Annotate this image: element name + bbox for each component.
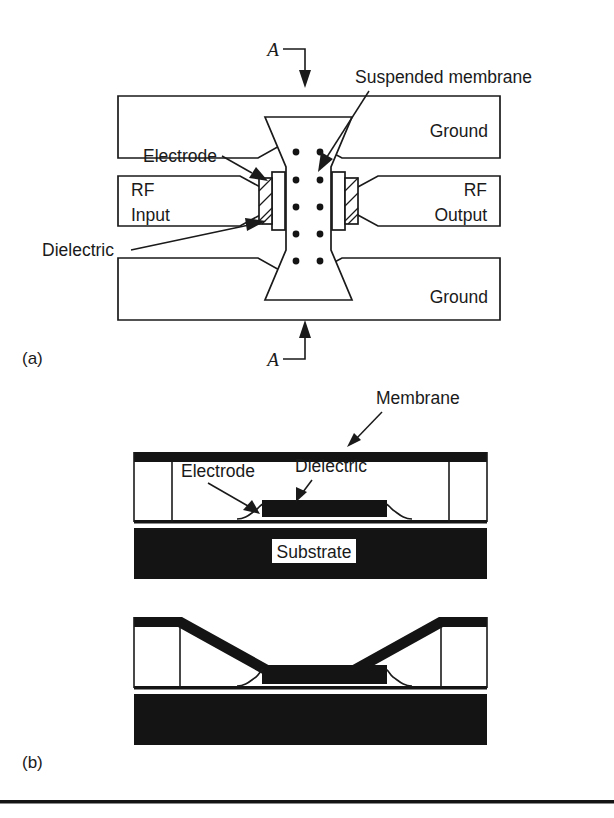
rf-output-label-line2: Output (434, 205, 487, 225)
rf-input-label-line2: Input (131, 205, 170, 225)
right-electrode-pad (332, 172, 345, 230)
section-marker-top-letter: A (265, 39, 279, 60)
section-arrow-down-icon (299, 70, 311, 88)
section-marker-top-leader (283, 49, 305, 72)
membrane-hole (293, 258, 300, 265)
membrane-hole (293, 149, 300, 156)
panel-a-top-view: A Ground Ground RF Input RF Output (22, 39, 532, 370)
panel-b-cross-sections: Membrane Substrate (22, 388, 487, 772)
rf-input-line: RF Input (118, 176, 262, 226)
bottom-electrode-down (262, 668, 387, 684)
ground-top-label: Ground (430, 121, 488, 141)
suspended-membrane-label: Suspended membrane (355, 67, 532, 87)
electrode-label-b: Electrode (181, 461, 255, 481)
ground-bottom-label: Ground (430, 287, 488, 307)
cross-section-down-state (134, 617, 487, 745)
membrane-hole (293, 177, 300, 184)
rf-output-label-line1: RF (464, 180, 487, 200)
membrane-label-b: Membrane (376, 388, 460, 408)
rf-input-label-line1: RF (131, 180, 154, 200)
dielectric-leader-a (131, 225, 249, 250)
bottom-divider-rule (0, 800, 614, 804)
rf-output-line: RF Output (356, 176, 500, 226)
membrane-hole (317, 231, 324, 238)
lower-layer-line-up (134, 520, 487, 524)
dielectric-label-b: Dielectric (295, 456, 367, 476)
dielectric-label-a: Dielectric (42, 240, 114, 260)
panel-b-caption: (b) (22, 753, 43, 772)
membrane-hole (317, 177, 324, 184)
left-electrode-pad (272, 172, 285, 230)
membrane-hole (293, 231, 300, 238)
lower-layer-line-down (134, 686, 487, 690)
membrane-hole (293, 204, 300, 211)
callout-membrane-b: Membrane (347, 388, 460, 447)
right-electrode-dielectric-stack (332, 172, 358, 230)
dielectric-cap-down (262, 665, 387, 669)
substrate-block-down (134, 694, 487, 745)
section-arrow-up-icon (299, 320, 311, 338)
substrate-label-up: Substrate (277, 542, 352, 562)
electrode-label-a: Electrode (143, 146, 217, 166)
membrane-leader-b (355, 412, 382, 440)
mems-switch-figure: A Ground Ground RF Input RF Output (0, 0, 614, 818)
figure-root: A Ground Ground RF Input RF Output (0, 0, 614, 818)
bottom-electrode-up (262, 503, 387, 517)
cross-section-up-state: Substrate Electrode (134, 452, 487, 579)
section-marker-bottom: A (265, 320, 311, 370)
panel-a-caption: (a) (22, 349, 43, 368)
section-marker-top: A (265, 39, 311, 88)
electrode-arrow-icon-a (249, 167, 268, 181)
membrane-hole (317, 258, 324, 265)
section-marker-bottom-letter: A (265, 349, 279, 370)
section-marker-bottom-leader (283, 336, 305, 359)
membrane-hole (317, 204, 324, 211)
dielectric-cap-up (262, 500, 387, 504)
